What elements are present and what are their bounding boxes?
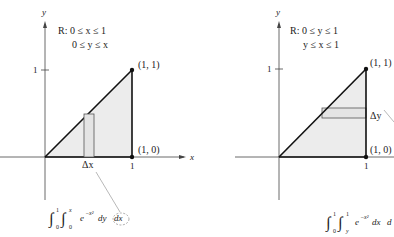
right-delta-label: Δy [370, 110, 381, 121]
svg-text:y: y [345, 228, 349, 234]
right-tick-x-label: 1 [364, 161, 369, 171]
right-point-bottom-label: (1, 0) [370, 144, 392, 156]
right-region-line1: R: 0 ≤ y ≤ 1 [290, 25, 338, 36]
right-y-arrow-icon [277, 21, 281, 28]
left-point-top [130, 68, 134, 72]
right-delta-rect [322, 108, 366, 118]
left-y-arrow-icon [43, 21, 47, 28]
svg-text:dx: dx [114, 213, 123, 223]
svg-text:dy: dy [98, 213, 107, 223]
svg-text:∫: ∫ [48, 210, 55, 229]
svg-text:1: 1 [56, 207, 59, 213]
svg-text:0: 0 [333, 228, 336, 234]
left-region-line1: R: 0 ≤ x ≤ 1 [58, 25, 106, 36]
svg-text:e: e [80, 213, 84, 223]
left-panel: y x 1 1 R: 0 ≤ x ≤ 1 0 ≤ y ≤ x (1, 1) (1… [0, 7, 194, 230]
left-point-bottom-label: (1, 0) [138, 144, 160, 156]
svg-text:0: 0 [56, 224, 59, 230]
svg-text:0: 0 [69, 224, 72, 230]
svg-text:x: x [68, 207, 72, 213]
left-y-label: y [41, 7, 46, 17]
left-tick-y-label: 1 [33, 65, 38, 75]
right-leader-line [384, 110, 394, 122]
svg-text:−x²: −x² [360, 214, 369, 220]
svg-text:e: e [355, 217, 359, 227]
left-delta-label: Δx [82, 159, 93, 170]
svg-text:∫: ∫ [325, 214, 332, 233]
svg-text:dx: dx [372, 217, 381, 227]
right-region-line2: y ≤ x ≤ 1 [303, 39, 339, 50]
right-point-top-label: (1, 1) [370, 57, 392, 69]
svg-text:1: 1 [346, 211, 349, 217]
left-leader-line [96, 172, 120, 212]
left-x-label: x [189, 152, 194, 162]
left-integral: ∫ 1 0 ∫ x 0 e −x² dy dx [48, 207, 123, 230]
svg-text:d: d [387, 217, 392, 227]
left-delta-rect [84, 114, 94, 157]
left-point-top-label: (1, 1) [138, 59, 160, 71]
left-tick-x-label: 1 [130, 161, 135, 171]
svg-text:∫: ∫ [60, 210, 67, 229]
right-integral: ∫ 1 0 ∫ 1 y e −x² dx d [325, 211, 392, 234]
figure-canvas: y x 1 1 R: 0 ≤ x ≤ 1 0 ≤ y ≤ x (1, 1) (1… [0, 0, 394, 237]
svg-text:1: 1 [333, 211, 336, 217]
svg-text:−x²: −x² [85, 210, 94, 216]
right-y-label: y [275, 7, 280, 17]
right-point-bottom [364, 155, 368, 159]
right-point-top [364, 67, 368, 71]
left-point-bottom [130, 155, 134, 159]
left-x-arrow-icon [179, 155, 186, 159]
right-panel: y 1 1 R: 0 ≤ y ≤ 1 y ≤ x ≤ 1 (1, 1) (1, … [235, 7, 394, 234]
right-tick-y-label: 1 [267, 64, 272, 74]
left-region-line2: 0 ≤ y ≤ x [72, 39, 108, 50]
svg-text:∫: ∫ [337, 214, 344, 233]
